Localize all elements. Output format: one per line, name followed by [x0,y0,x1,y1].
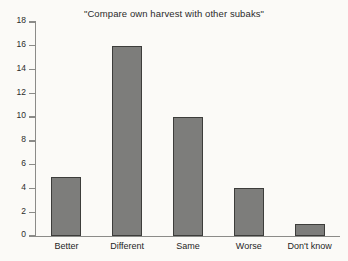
plot-area [36,22,340,236]
y-axis-tick-label: 8 [21,134,26,145]
y-axis-tick: 6 [29,164,35,165]
bar-chart: "Compare own harvest with other subaks" … [0,0,348,261]
x-axis-label: Same [158,240,219,252]
bar [234,188,264,236]
x-axis-label: Worse [218,240,279,252]
y-axis-tick-label: 16 [17,39,26,50]
y-axis-tick: 12 [29,93,35,94]
y-axis-tick-label: 14 [17,63,26,74]
bar [51,177,81,236]
y-axis-tick: 18 [29,21,35,22]
bar [295,224,325,236]
x-axis-label: Don't know [279,240,340,252]
x-axis-label: Better [36,240,97,252]
y-axis-tick: 0 [29,235,35,236]
x-axis-label: Different [97,240,158,252]
y-axis-tick-label: 0 [21,229,26,240]
y-axis-tick: 16 [29,45,35,46]
y-axis-tick-label: 12 [17,87,26,98]
bar [112,46,142,236]
y-axis-tick-label: 18 [17,15,26,26]
y-axis-tick: 10 [29,116,35,117]
y-axis-tick-label: 10 [17,110,26,121]
bar [173,117,203,236]
y-axis-tick-label: 2 [21,206,26,217]
y-axis-tick-label: 6 [21,158,26,169]
y-axis-tick: 14 [29,69,35,70]
chart-title: "Compare own harvest with other subaks" [0,8,348,19]
y-axis-tick-label: 4 [21,182,26,193]
y-axis-tick: 2 [29,212,35,213]
y-axis-tick: 8 [29,140,35,141]
y-axis-tick: 4 [29,188,35,189]
